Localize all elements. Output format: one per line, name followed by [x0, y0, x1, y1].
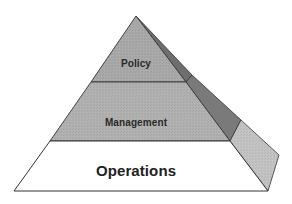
- policy-label: Policy: [121, 58, 151, 69]
- operations-label: Operations: [96, 162, 176, 179]
- pyramid-diagram: Policy Management Operations: [0, 0, 292, 204]
- management-label: Management: [105, 117, 167, 128]
